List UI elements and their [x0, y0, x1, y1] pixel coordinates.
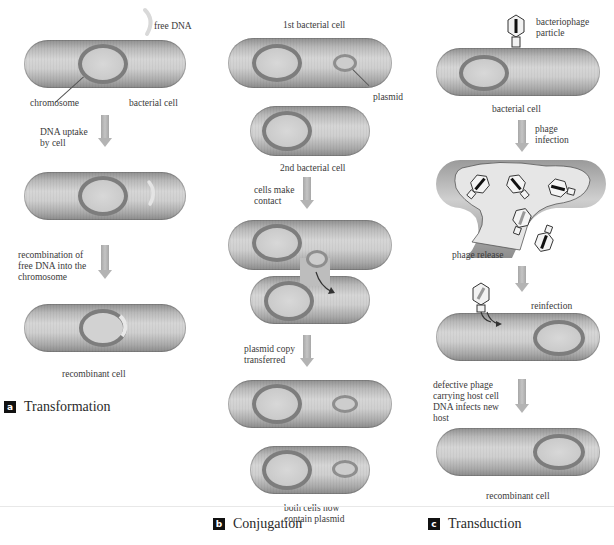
chromosome-ring [252, 44, 302, 82]
label-recombinant-cell: recombinant cell [486, 491, 550, 502]
label-plasmid-copy-transferred: plasmid copy transferred [244, 344, 295, 366]
label-defective-phage: defective phage carrying host cell DNA i… [433, 380, 499, 424]
chromosome-ring [78, 176, 128, 216]
label-reinfection: reinfection [531, 301, 572, 312]
panel-badge-a: a [4, 401, 16, 413]
label-chromosome: chromosome [30, 98, 79, 109]
label-recombinant-cell: recombinant cell [62, 369, 126, 380]
phage-injection-arrow-icon [487, 312, 505, 328]
label-free-dna: free DNA [154, 21, 192, 32]
chromosome-ring [459, 55, 509, 91]
panel-title-transduction: c Transduction [428, 516, 521, 532]
panel-title-conjugation: b Conjugation [213, 516, 302, 532]
step-arrow-down-icon [99, 115, 111, 147]
plasmid-ring [306, 250, 328, 268]
chromosome-ring [262, 450, 312, 490]
chromosome-ring [252, 224, 302, 262]
label-cells-make-contact: cells make contact [254, 185, 294, 207]
label-plasmid: plasmid [373, 92, 403, 103]
plasmid-ring [332, 460, 358, 478]
label-first-bacterial-cell: 1st bacterial cell [283, 20, 345, 31]
transfer-arrow-icon [314, 270, 338, 298]
step-arrow-down-icon [516, 266, 528, 292]
chromosome-ring [252, 384, 302, 424]
step-arrow-down-icon [301, 335, 313, 367]
label-bacteriophage-particle: bacteriophage particle [536, 17, 589, 39]
plasmid-ring [333, 54, 357, 72]
label-phage-infection: phage infection [535, 124, 569, 146]
chromosome-ring [533, 320, 585, 356]
panel-badge-c: c [428, 518, 440, 530]
panel-badge-b: b [213, 518, 225, 530]
step-arrow-down-icon [516, 379, 528, 413]
panel-title: Conjugation [233, 516, 302, 532]
label-dna-uptake: DNA uptake by cell [40, 127, 88, 149]
label-recombination: recombination of free DNA into the chrom… [18, 250, 86, 283]
internalized-dna-icon [146, 180, 158, 206]
step-arrow-down-icon [99, 245, 111, 279]
bottom-divider [0, 506, 614, 507]
label-second-bacterial-cell: 2nd bacterial cell [280, 163, 345, 174]
step-arrow-down-icon [516, 120, 528, 152]
chromosome-ring [533, 434, 585, 470]
label-phage-release: phage release [452, 250, 503, 261]
step-arrow-down-icon [301, 177, 313, 209]
chromosome-ring [264, 281, 314, 321]
bacteriophage-icon [506, 14, 526, 50]
lysing-cell-illustration [436, 158, 606, 258]
panel-title: Transduction [448, 516, 521, 532]
plasmid-ring [332, 395, 358, 413]
chromosome-ring [262, 111, 312, 151]
panel-title-transformation: a Transformation [4, 399, 111, 415]
chromosome-ring [78, 44, 128, 84]
label-bacterial-cell: bacterial cell [492, 104, 541, 115]
panel-title: Transformation [24, 399, 111, 415]
label-bacterial-cell: bacterial cell [129, 98, 178, 109]
recombinant-chromosome-icon [78, 308, 128, 348]
